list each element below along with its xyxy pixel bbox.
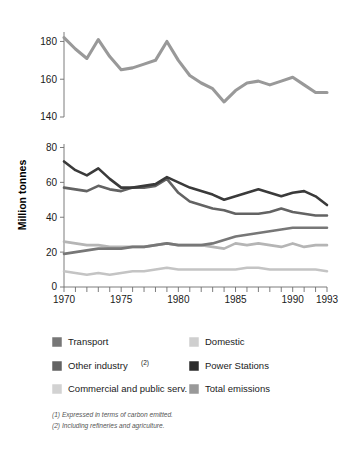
emissions-line-chart: Million tonnes 140160180 020406080 19701…	[0, 0, 343, 460]
legend-swatch	[189, 384, 199, 394]
footnote: (1) Expressed in terms of carbon emitted…	[52, 411, 173, 419]
lower-y-tick-label: 0	[51, 281, 57, 292]
legend-label: Domestic	[205, 336, 245, 347]
upper-y-tick-label: 140	[40, 111, 57, 122]
legend-swatch	[52, 361, 62, 371]
legend-label: Transport	[68, 336, 109, 347]
legend-label-superscript: (2)	[141, 359, 149, 367]
x-tick-label: 1993	[316, 294, 339, 305]
x-tick-label: 1980	[167, 294, 190, 305]
lower-y-tick-label: 80	[46, 142, 58, 153]
legend-swatch	[52, 384, 62, 394]
legend-swatch	[52, 337, 62, 347]
footnote: (2) Including refineries and agriculture…	[52, 422, 165, 430]
legend-label: Total emissions	[205, 383, 270, 394]
upper-y-tick-label: 180	[40, 36, 57, 47]
x-tick-label: 1975	[110, 294, 133, 305]
legend-swatch	[189, 361, 199, 371]
lower-y-tick-label: 60	[46, 177, 58, 188]
legend-item[interactable]: Transport	[52, 336, 109, 347]
x-tick-label: 1990	[282, 294, 305, 305]
upper-y-tick-label: 160	[40, 74, 57, 85]
lower-y-tick-label: 40	[46, 212, 58, 223]
x-tick-label: 1970	[53, 294, 76, 305]
legend-item[interactable]: Domestic	[189, 336, 245, 347]
legend-label: Other industry	[68, 360, 128, 371]
y-axis-title: Million tonnes	[16, 160, 28, 231]
x-tick-label: 1985	[224, 294, 247, 305]
legend-label: Power Stations	[205, 360, 269, 371]
legend-item[interactable]: Commercial and public serv.	[52, 383, 187, 394]
legend-label: Commercial and public serv.	[68, 383, 187, 394]
legend-swatch	[189, 337, 199, 347]
lower-y-tick-label: 20	[46, 247, 58, 258]
